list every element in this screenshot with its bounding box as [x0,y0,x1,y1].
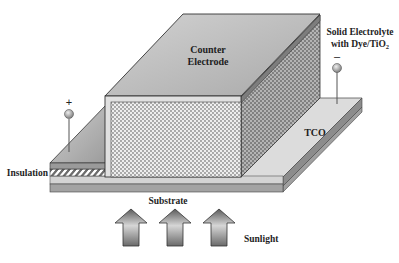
electrolyte-front-face [105,96,241,177]
insulation-label: Insulation [7,168,49,178]
sunlight-label: Sunlight [244,234,279,244]
arrow-up-icon [203,209,235,246]
dssc-diagram: + – Counter Electrode Solid Electrolyte … [0,0,399,263]
tco-label: TCO [304,127,326,138]
left-contact-block [50,105,108,169]
negative-sign: – [334,50,341,62]
arrow-up-icon [159,209,191,246]
sunlight-arrows [115,209,235,246]
counter-electrode-label-2: Electrode [188,56,229,67]
substrate-label: Substrate [148,196,187,206]
arrow-up-icon [115,209,147,246]
electrolyte-label: Solid Electrolyte [326,27,393,37]
substrate-layer [50,176,283,192]
positive-sign: + [66,96,72,108]
negative-terminal: – [333,50,342,104]
counter-electrode-label: Counter [190,44,226,55]
electrolyte-label-2: with Dye/TiO2 [331,39,389,50]
insulation-strip [50,169,111,176]
